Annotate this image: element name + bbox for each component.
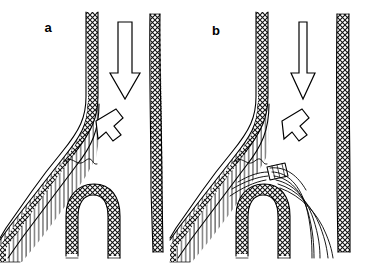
panel-b-label: b — [212, 23, 220, 38]
figure-root: a — [0, 0, 371, 266]
panel-a-label: a — [44, 20, 52, 35]
vascular-bifurcation-figure: a — [0, 0, 371, 266]
